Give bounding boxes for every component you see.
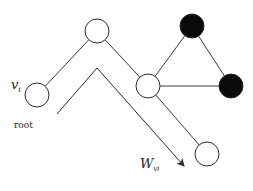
node-black-top [180,14,204,38]
random-walk-diagram: vi root Wvi [0,0,253,191]
graph-nodes [25,14,243,166]
walk-label: Wvi [140,156,160,173]
edge-middle-black-top [155,36,185,77]
node-top [85,19,109,43]
walk-path-arrow [57,68,184,166]
node-root [25,83,49,107]
start-node-label: vi [11,77,21,94]
edge-root-top [45,40,89,86]
node-middle [136,74,160,98]
edge-top-middle [105,40,140,77]
graph-edges [45,36,224,145]
edge-black-top-black-right [199,36,225,76]
node-black-right [219,74,243,98]
node-bottom-right [195,142,219,166]
root-label: root [14,120,33,130]
edge-middle-bottom-right [156,95,199,145]
